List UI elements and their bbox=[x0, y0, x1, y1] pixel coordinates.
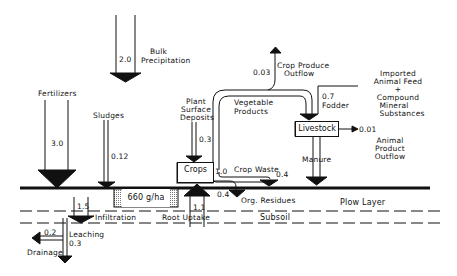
fodder-value: 0.7 bbox=[322, 92, 335, 101]
plant-surface-deposits-value: 0.3 bbox=[199, 135, 212, 144]
animal-product-outflow-label-3: Outflow bbox=[370, 152, 410, 161]
org-residues-label: Org. Residues bbox=[241, 196, 296, 205]
crop-produce-outflow-label-2: Outflow bbox=[284, 69, 314, 78]
subsoil-label: Subsoil bbox=[260, 213, 290, 222]
crops-label: Crops bbox=[184, 165, 207, 174]
crop-waste-value: 0.4 bbox=[276, 170, 289, 179]
animal-product-outflow-arrow bbox=[338, 126, 358, 132]
fodder-label: Fodder bbox=[322, 101, 349, 110]
animal-product-outflow-value: 0.01 bbox=[359, 125, 377, 134]
crop-produce-outflow-value: 0.03 bbox=[253, 68, 271, 77]
infiltration-label: Infiltration bbox=[95, 213, 136, 222]
bulk-precipitation-value: 2.0 bbox=[119, 55, 132, 64]
root-uptake-value: 1.1 bbox=[193, 203, 206, 212]
crops-node: Crops bbox=[177, 162, 214, 183]
vegetable-products-label-2: Products bbox=[234, 107, 268, 116]
bulk-precipitation-label-1: Bulk bbox=[150, 47, 167, 56]
crops-out-value: 1.0 bbox=[215, 167, 228, 176]
crop-waste-label: Crop Waste bbox=[234, 165, 279, 174]
sludges-value: 0.12 bbox=[111, 152, 129, 161]
org-residues-value: 0.4 bbox=[217, 190, 230, 199]
drainage-value: 0.2 bbox=[44, 228, 57, 237]
manure-label: Manure bbox=[302, 155, 331, 164]
bulk-precipitation-label-2: Precipitation bbox=[141, 56, 190, 65]
drainage-label: Drainage bbox=[27, 248, 63, 257]
livestock-label: Livestock bbox=[298, 124, 336, 133]
fertilizers-label: Fertilizers bbox=[38, 89, 77, 98]
plant-surface-deposits-label-3: Deposits bbox=[176, 113, 218, 122]
leaching-label: Leaching bbox=[69, 230, 104, 239]
vegetable-products-label-1: Vegetable bbox=[234, 98, 273, 107]
sludges-label: Sludges bbox=[93, 111, 124, 120]
root-uptake-label: Root Uptake bbox=[162, 213, 210, 222]
fertilizers-value: 3.0 bbox=[51, 139, 64, 148]
bulk-precipitation-arrow bbox=[110, 15, 141, 82]
imported-feed-label-6: Substances bbox=[362, 109, 442, 118]
livestock-node: Livestock bbox=[295, 121, 339, 137]
plow-layer-label: Plow Layer bbox=[340, 198, 385, 207]
soil-pool-label: 660 g/ha bbox=[122, 193, 170, 202]
infiltration-value: 1.5 bbox=[77, 202, 90, 211]
leaching-value: 0.3 bbox=[69, 239, 82, 248]
